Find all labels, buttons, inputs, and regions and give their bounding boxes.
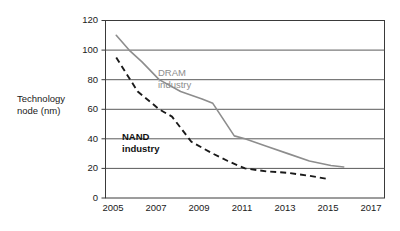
y-tick-label-60: 60 [76,104,98,114]
x-tick-label-2009: 2009 [184,203,214,213]
x-tick-label-2013: 2013 [270,203,300,213]
y-tick-marks [102,21,106,199]
y-tick-label-20: 20 [76,163,98,173]
y-tick-label-120: 120 [76,15,98,25]
x-tick-label-2015: 2015 [313,203,343,213]
chart-figure: Technology node (nm) 120 100 80 60 40 20… [0,0,400,231]
series-annotation-nand: NAND industry [122,131,159,155]
x-tick-label-2017: 2017 [356,203,386,213]
x-tick-label-2011: 2011 [227,203,257,213]
x-tick-label-2005: 2005 [98,203,128,213]
y-tick-label-0: 0 [76,193,98,203]
series-annotation-dram: DRAM industry [158,67,191,91]
y-tick-label-40: 40 [76,134,98,144]
x-tick-label-2007: 2007 [141,203,171,213]
y-tick-label-80: 80 [76,75,98,85]
y-tick-label-100: 100 [76,45,98,55]
